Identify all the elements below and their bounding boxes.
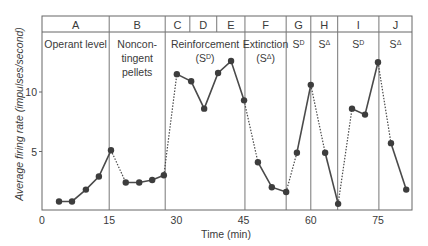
- series-line-I: [352, 62, 378, 114]
- series-line-A: [59, 150, 111, 201]
- phase-header-J: J: [393, 19, 399, 31]
- phase-header-C: C: [174, 19, 182, 31]
- data-point: [149, 177, 155, 183]
- data-point: [215, 70, 221, 76]
- x-tick-label: 75: [372, 214, 384, 226]
- phase-label-H: SΔ: [318, 38, 330, 50]
- data-point: [322, 149, 328, 155]
- data-point: [56, 198, 62, 204]
- phase-label-I: SD: [352, 38, 364, 50]
- phase-header-labels: ABCDEFGHIJ: [72, 19, 398, 31]
- data-point: [69, 198, 75, 204]
- x-tick-label: 60: [305, 214, 317, 226]
- phase-header-G: G: [294, 19, 303, 31]
- phase-header-E: E: [227, 19, 234, 31]
- series-line-B: [126, 175, 164, 182]
- data-point: [136, 179, 142, 185]
- phase-label-C-E: Reinforcement: [171, 38, 239, 50]
- x-tick-label: 30: [171, 214, 183, 226]
- data-point: [83, 186, 89, 192]
- data-point: [161, 172, 167, 178]
- data-point: [403, 186, 409, 192]
- connector-I-J: [378, 62, 391, 143]
- data-point: [108, 147, 114, 153]
- phase-label-F: (SΔ): [256, 52, 275, 64]
- phase-label-B: Noncon-: [117, 38, 157, 50]
- data-point: [96, 173, 102, 179]
- phase-label-J: SΔ: [390, 38, 402, 50]
- data-point: [283, 189, 289, 195]
- data-point: [188, 78, 194, 84]
- phase-descriptions: Operant levelNoncon-tingentpelletsReinfo…: [44, 38, 401, 78]
- data-point: [294, 149, 300, 155]
- x-axis-label: Time (min): [201, 228, 251, 240]
- phase-header-I: I: [357, 19, 360, 31]
- connector-G-H: [311, 85, 325, 153]
- data-point: [335, 201, 341, 207]
- data-point: [255, 159, 261, 165]
- firing-rate-chart: ABCDEFGHIJ Operant levelNoncon-tingentpe…: [0, 0, 428, 246]
- connector-B-C-E: [164, 74, 177, 175]
- x-tick-label: 0: [39, 214, 45, 226]
- y-tick-label: 5: [31, 146, 37, 158]
- phase-header-H: H: [320, 19, 328, 31]
- connector-F-G: [286, 153, 297, 192]
- phase-header-F: F: [262, 19, 269, 31]
- phase-header-D: D: [199, 19, 207, 31]
- data-point: [123, 179, 129, 185]
- data-point: [375, 59, 381, 65]
- y-axis-label: Average firing rate (impulses/second): [13, 27, 25, 202]
- y-tick-label: 10: [25, 86, 37, 98]
- phase-label-F: Extinction: [243, 38, 289, 50]
- phase-label-G: SD: [292, 38, 304, 50]
- phase-label-B: tingent: [121, 52, 153, 64]
- data-point: [362, 111, 368, 117]
- data-point: [388, 140, 394, 146]
- phase-label-B: pellets: [122, 66, 152, 78]
- phase-header-A: A: [72, 19, 80, 31]
- phase-header-B: B: [134, 19, 141, 31]
- series-line-G: [297, 85, 311, 153]
- x-tick-label: 15: [103, 214, 115, 226]
- connector-A-B: [111, 150, 126, 182]
- series-line-C-E: [177, 61, 244, 109]
- series-line-H: [325, 153, 338, 204]
- data-point: [201, 105, 207, 111]
- connector-H-I: [338, 109, 352, 204]
- x-tick-label: 45: [238, 214, 250, 226]
- data-point: [228, 58, 234, 64]
- connector-C-E-F: [244, 100, 258, 162]
- series-line-J: [391, 143, 406, 189]
- data-point: [174, 71, 180, 77]
- phase-label-A: Operant level: [44, 38, 106, 50]
- phase-label-C-E: (SD): [196, 52, 215, 64]
- data-point: [349, 105, 355, 111]
- data-point: [269, 184, 275, 190]
- data-point: [241, 97, 247, 103]
- data-point: [308, 82, 314, 88]
